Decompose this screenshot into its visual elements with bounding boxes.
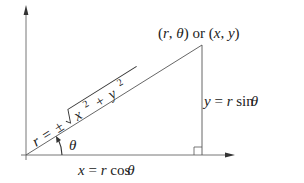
vertical-side-label: y = r sinθ (202, 93, 259, 109)
angle-theta-arc (56, 136, 62, 155)
horizontal-side-label: x = r cosθ (77, 162, 135, 178)
x-axis (21, 153, 235, 158)
right-angle-marker (194, 147, 202, 155)
polar-coordinates-diagram: (r, θ) or (x, y) r = ± x 2 + y 2 θ (0, 0, 304, 183)
y-axis-arrow-icon (24, 5, 29, 15)
point-label: (r, θ) or (x, y) (158, 25, 240, 42)
hypotenuse-label: r = ± x 2 + y 2 (25, 62, 146, 149)
x-axis-arrow-icon (225, 153, 235, 158)
svg-text:x 2 +: x 2 + y 2 (66, 73, 129, 124)
point-label-connector: or (192, 25, 205, 41)
y-axis (24, 5, 29, 160)
angle-label: θ (69, 137, 77, 153)
